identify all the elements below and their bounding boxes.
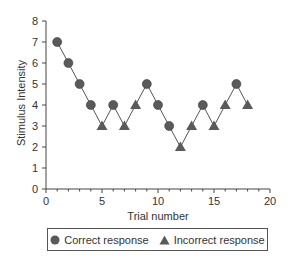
correct-marker — [75, 80, 84, 89]
circle-marker-icon — [50, 235, 60, 245]
incorrect-marker — [186, 121, 197, 131]
correct-marker — [53, 38, 62, 47]
correct-marker — [64, 59, 73, 68]
correct-marker — [165, 122, 174, 131]
correct-marker — [232, 80, 241, 89]
correct-marker — [198, 101, 207, 110]
y-tick-label: 8 — [32, 15, 38, 27]
y-tick-label: 0 — [32, 183, 38, 195]
y-tick-label: 6 — [32, 57, 38, 69]
y-tick-label: 7 — [32, 36, 38, 48]
y-tick-label: 2 — [32, 141, 38, 153]
data-line — [57, 42, 247, 147]
x-tick-label: 0 — [43, 195, 49, 207]
x-tick-label: 5 — [99, 195, 105, 207]
correct-marker — [142, 80, 151, 89]
y-axis-label: Stimulus Intensity — [15, 53, 27, 153]
legend-item-correct: Correct response — [50, 234, 148, 246]
incorrect-marker — [119, 121, 130, 131]
incorrect-marker — [242, 100, 253, 110]
triangle-marker-icon — [159, 235, 170, 245]
legend-label-correct: Correct response — [64, 234, 148, 246]
x-axis-label: Trial number — [108, 210, 208, 222]
y-tick-label: 3 — [32, 120, 38, 132]
y-tick-label: 5 — [32, 78, 38, 90]
y-tick-label: 1 — [32, 162, 38, 174]
incorrect-marker — [220, 100, 231, 110]
x-tick-label: 20 — [264, 195, 276, 207]
incorrect-marker — [130, 100, 141, 110]
x-tick-label: 10 — [152, 195, 164, 207]
incorrect-marker — [97, 121, 108, 131]
incorrect-marker — [209, 121, 220, 131]
correct-marker — [109, 101, 118, 110]
correct-marker — [86, 101, 95, 110]
x-tick-label: 15 — [208, 195, 220, 207]
legend-label-incorrect: Incorrect response — [174, 234, 265, 246]
staircase-chart: 01234567805101520 — [0, 0, 289, 230]
correct-marker — [154, 101, 163, 110]
legend-item-incorrect: Incorrect response — [159, 234, 265, 246]
incorrect-marker — [175, 142, 186, 152]
legend: Correct response Incorrect response — [47, 228, 268, 251]
y-tick-label: 4 — [32, 99, 38, 111]
